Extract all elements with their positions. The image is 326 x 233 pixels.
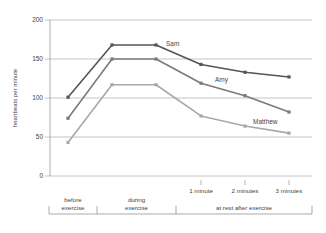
data-point (199, 63, 202, 66)
x-tick-label: 1 minute (189, 187, 213, 194)
x-group-label: at rest after exercise (216, 204, 273, 211)
series-lines: SamAmyMatthew (66, 40, 290, 145)
data-point (243, 94, 246, 97)
data-point (287, 110, 290, 113)
data-point (287, 132, 290, 135)
x-group-label: before (64, 196, 82, 203)
data-point (66, 141, 69, 144)
data-point (199, 114, 202, 117)
y-tick-label: 100 (32, 94, 43, 101)
data-point (110, 57, 113, 60)
x-group-label: exercise (61, 204, 85, 211)
y-tick-label: 150 (32, 55, 43, 62)
data-point (287, 75, 290, 78)
y-tick-labels: 050100150200 (32, 16, 43, 179)
y-tick-label: 50 (36, 133, 44, 140)
series-label-matthew: Matthew (253, 118, 278, 125)
data-point (199, 82, 202, 85)
series-label-amy: Amy (215, 76, 229, 84)
data-point (66, 117, 69, 120)
x-tick-label: 2 minutes (232, 187, 259, 194)
y-tick-label: 0 (39, 172, 43, 179)
y-axis-title: heartbeats per minute (12, 68, 18, 127)
x-group-brackets: beforeexerciseduringexerciseat rest afte… (49, 196, 312, 214)
data-point (110, 83, 113, 86)
y-tick-label: 200 (32, 16, 43, 23)
data-point (154, 43, 157, 46)
x-group-label: exercise (125, 204, 149, 211)
data-point (243, 124, 246, 127)
series-line-matthew (68, 85, 289, 143)
data-point (243, 71, 246, 74)
heart-rate-chart: 050100150200 heartbeats per minute SamAm… (0, 0, 326, 233)
x-minute-ticks: 1 minute2 minutes3 minutes (189, 180, 302, 194)
data-point (154, 57, 157, 60)
data-point (110, 43, 113, 46)
x-group-label: during (128, 196, 146, 203)
x-tick-label: 3 minutes (276, 187, 303, 194)
data-point (154, 83, 157, 86)
data-point (66, 96, 69, 99)
series-line-amy (68, 59, 289, 118)
series-label-sam: Sam (166, 40, 179, 47)
